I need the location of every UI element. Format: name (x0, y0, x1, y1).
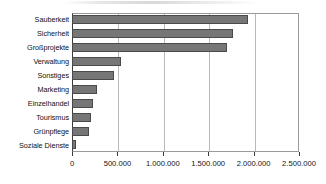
category-label: Sicherheit (0, 29, 69, 38)
x-axis-tick (117, 152, 118, 156)
x-axis-tick-label: 1.500.000 (191, 158, 225, 169)
category-label: Grünpflege (0, 127, 69, 136)
x-axis-tick-label: 0 (70, 158, 74, 169)
bar (72, 71, 114, 80)
bar-row (72, 138, 299, 152)
x-axis-tick-label: 2.000.000 (237, 158, 271, 169)
bar-row (72, 55, 299, 69)
bars-layer (72, 13, 299, 152)
category-label: Marketing (0, 85, 69, 94)
x-axis-tick (163, 152, 164, 156)
category-label: Tourismus (0, 113, 69, 122)
x-axis-tick (72, 152, 73, 156)
bar-row (72, 110, 299, 124)
bar (72, 57, 121, 66)
bar-row (72, 96, 299, 110)
bar-row (72, 124, 299, 138)
bar (72, 43, 227, 52)
category-label: Einzelhandel (0, 99, 69, 108)
bar (72, 140, 76, 149)
bar (72, 113, 91, 122)
x-axis-tick (208, 152, 209, 156)
category-label: Großprojekte (0, 43, 69, 52)
x-axis-tick (254, 152, 255, 156)
x-axis-tick-label: 2.500.000 (282, 158, 316, 169)
category-axis-labels: SauberkeitSicherheitGroßprojekteVerwaltu… (0, 13, 69, 152)
bar-row (72, 41, 299, 55)
bar-row (72, 13, 299, 27)
bar-row (72, 83, 299, 97)
bar (72, 15, 248, 24)
category-label: Verwaltung (0, 57, 69, 66)
category-label: Soziale Dienste (0, 141, 69, 150)
category-label: Sonstiges (0, 71, 69, 80)
x-axis-tick-label: 500.000 (104, 158, 131, 169)
bar (72, 85, 97, 94)
bar-row (72, 69, 299, 83)
bar (72, 99, 93, 108)
x-axis-tick-label: 1.000.000 (146, 158, 180, 169)
bar-chart: SauberkeitSicherheitGroßprojekteVerwaltu… (0, 0, 326, 184)
category-label: Sauberkeit (0, 15, 69, 24)
bar-row (72, 27, 299, 41)
bar (72, 127, 89, 136)
cut-off-title-remnant (64, 1, 260, 4)
bar (72, 29, 233, 38)
x-axis-tick (299, 152, 300, 156)
x-axis-labels: 0500.0001.000.0001.500.0002.000.0002.500… (0, 158, 326, 172)
